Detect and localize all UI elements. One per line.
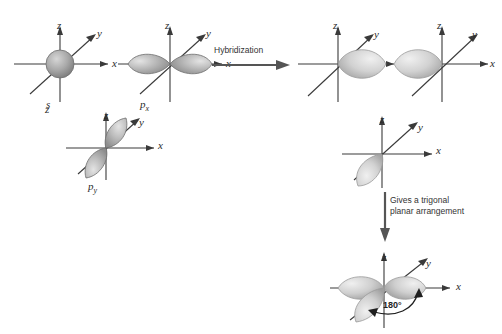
px-lobe-negative [128,54,170,74]
hybridization-step-label: Hybridization [214,45,263,56]
h1-axis-label-y: y [374,29,379,40]
trigonal-step-label: Gives a trigonal planar arrangement [390,195,464,216]
py-axis-label-x: x [158,140,163,151]
h3-axis-label-x: x [436,145,441,156]
h3-axis-label-z: z [380,114,384,125]
py-axis-label-y: y [139,117,144,128]
hybrid-orbital-1-panel [298,16,408,104]
trigonal-planar-panel [326,248,486,334]
s-axis-label-x: x [112,58,117,69]
s-orbital-sphere [46,50,74,78]
py-orbital-label: py [88,181,97,195]
h1-axis-label-z: z [333,20,337,31]
hybrid-lobe-1 [338,50,386,79]
axis-arrowheads [439,26,488,67]
hybrid-orbital-1-drawing [298,16,408,104]
px-axis-label-y: y [206,28,211,39]
py-axis-label-z: z [104,110,108,121]
hybridization-arrow-icon [212,58,294,72]
orbital-hybridization-figure: z z y x s [0,0,502,334]
h2-axis-label-z: z [437,20,441,31]
px-axis-label-z: z [165,20,169,31]
h3-axis-label-y: y [418,122,423,133]
h2-axis-label-y: y [472,29,477,40]
tp-axis-label-y: y [426,258,431,269]
trigonal-planar-drawing [326,248,486,334]
trigonal-arrow-icon [378,192,392,244]
px-lobe-positive [170,54,212,74]
tp-axis-label-z: z [382,252,386,263]
py-lobe-positive [105,118,127,148]
s-axis-label-y: y [97,28,102,39]
h2-axis-label-x: x [490,58,495,69]
s-orbital-label: s [46,99,50,110]
py-lobe-negative [85,148,107,178]
s-axis-label-z: z [57,20,61,31]
hybrid-orbital-2-panel [398,16,502,104]
angle-label: 180° [383,300,402,310]
hybrid-orbital-2-drawing [398,16,502,104]
tp-axis-label-x: x [456,281,461,292]
hybrid-lobe-3 [357,154,383,186]
